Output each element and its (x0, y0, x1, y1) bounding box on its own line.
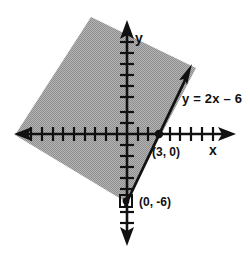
shaded-solution-region (15, 17, 196, 202)
point-marker-x-intercept (155, 130, 163, 138)
equation-label: y = 2x – 6 (182, 92, 242, 105)
x-axis-label: x (209, 143, 217, 157)
graph-figure: y = 2x – 6 x y (3, 0) (0, -6) (0, 0, 250, 256)
point-dot-y-intercept (123, 198, 130, 205)
x-intercept-point-label: (3, 0) (152, 146, 180, 158)
y-intercept-point-label: (0, -6) (139, 196, 171, 208)
coordinate-plane-svg (0, 0, 250, 256)
y-axis-label: y (135, 31, 143, 45)
